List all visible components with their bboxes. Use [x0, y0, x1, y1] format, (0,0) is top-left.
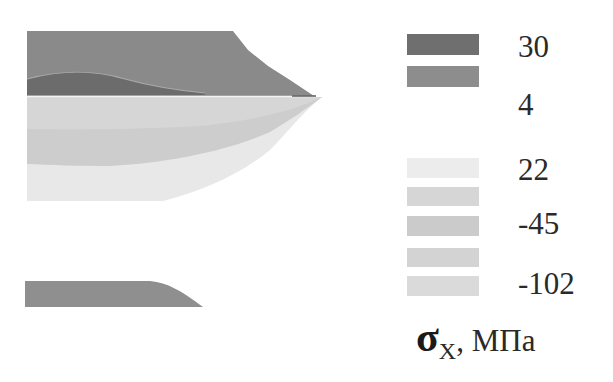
legend-swatch-4 — [407, 187, 479, 206]
legend-swatch-2 — [407, 66, 479, 87]
legend-swatch-5 — [407, 216, 479, 236]
sigma-subscript: X — [439, 338, 456, 364]
legend-label-30: 30 — [518, 31, 549, 62]
legend-swatch-6 — [407, 248, 479, 267]
legend-swatch-7 — [407, 276, 479, 296]
bottom-stress-shape — [25, 281, 203, 307]
legend-label-22: 22 — [518, 154, 549, 185]
legend-swatch-3 — [407, 158, 479, 178]
legend-label-minus-102: -102 — [518, 268, 575, 299]
unit-label: , МПа — [456, 323, 535, 358]
legend-label-4: 4 — [518, 89, 534, 120]
legend-swatch-1 — [407, 34, 479, 55]
sigma-symbol: σ — [416, 314, 439, 360]
legend-label-minus-45: -45 — [518, 208, 559, 239]
legend-unit-title: σX, МПа — [416, 316, 535, 358]
